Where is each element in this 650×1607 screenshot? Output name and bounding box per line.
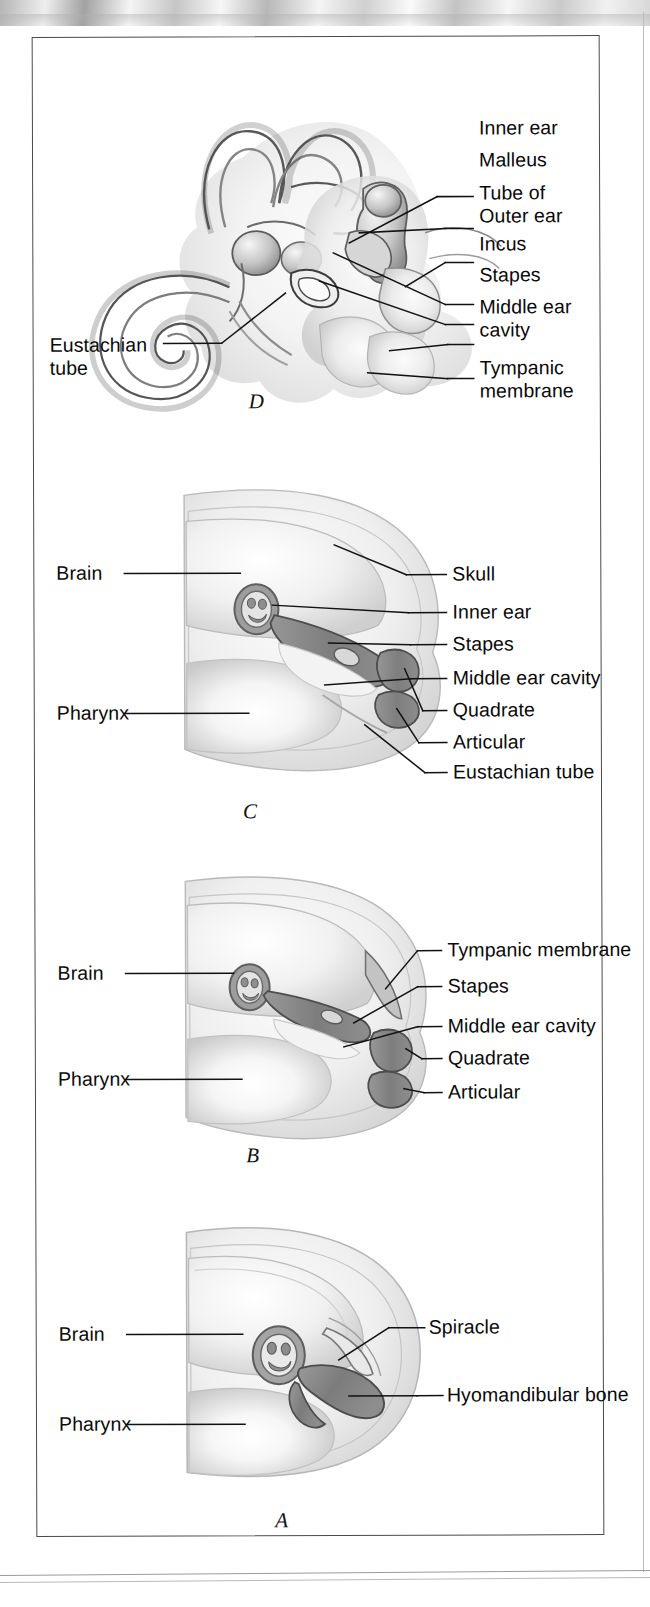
label-middle-ear-cavity-b: Middle ear cavity xyxy=(448,1014,596,1037)
label-eustachian-tube-c: Eustachian tube xyxy=(453,760,594,783)
figure-frame: Inner ear Malleus Tube of Outer ear Incu… xyxy=(32,35,605,1537)
scan-page-edge-bottom xyxy=(0,1575,650,1589)
panel-a-illustration xyxy=(36,1191,603,1533)
panel-c: Skull Inner ear Stapes Middle ear cavity… xyxy=(34,456,601,838)
label-pharynx-a: Pharynx xyxy=(59,1413,131,1436)
panel-letter-a: A xyxy=(275,1508,288,1533)
label-tympanic-membrane-b: Tympanic membrane xyxy=(447,938,631,961)
label-inner-ear-c: Inner ear xyxy=(452,600,531,623)
panel-b: Tympanic membrane Stapes Middle ear cavi… xyxy=(35,846,602,1188)
panel-d: Inner ear Malleus Tube of Outer ear Incu… xyxy=(33,36,600,418)
label-skull-c: Skull xyxy=(452,562,495,585)
label-stapes-d: Stapes xyxy=(479,263,540,286)
label-articular-b: Articular xyxy=(448,1080,520,1103)
label-stapes-b: Stapes xyxy=(448,974,509,997)
panel-letter-b: B xyxy=(246,1143,259,1168)
label-malleus-d: Malleus xyxy=(479,148,547,171)
panel-a: Spiracle Hyomandibular bone Brain Pharyn… xyxy=(36,1191,603,1533)
label-spiracle-a: Spiracle xyxy=(429,1315,500,1338)
page-edge-line-upper xyxy=(0,1570,650,1576)
label-inner-ear-d: Inner ear xyxy=(479,116,558,139)
label-pharynx-b: Pharynx xyxy=(58,1068,130,1091)
label-quadrate-b: Quadrate xyxy=(448,1046,530,1069)
label-tympanic-membrane-d: Tympanic membrane xyxy=(480,356,574,402)
label-quadrate-c: Quadrate xyxy=(453,698,535,721)
label-eustachian-tube-d: Eustachian tube xyxy=(50,334,148,380)
panel-letter-d: D xyxy=(249,389,264,414)
label-articular-c: Articular xyxy=(453,730,525,753)
label-pharynx-c: Pharynx xyxy=(57,702,129,725)
label-tube-of-outer-ear-d: Tube of Outer ear xyxy=(479,181,562,226)
page-edge-line-lower xyxy=(0,1577,650,1583)
label-middle-ear-cavity-d: Middle ear cavity xyxy=(479,295,571,341)
label-brain-c: Brain xyxy=(56,562,102,585)
scan-page-edge-right xyxy=(643,12,644,1572)
label-incus-d: Incus xyxy=(479,232,526,255)
label-brain-b: Brain xyxy=(58,962,104,985)
panel-letter-c: C xyxy=(243,799,257,824)
scan-smudge-top xyxy=(0,0,650,26)
label-brain-a: Brain xyxy=(59,1323,105,1346)
label-hyomandibular-bone-a: Hyomandibular bone xyxy=(447,1383,629,1406)
label-stapes-c: Stapes xyxy=(453,632,514,655)
label-middle-ear-cavity-c: Middle ear cavity xyxy=(453,666,601,689)
